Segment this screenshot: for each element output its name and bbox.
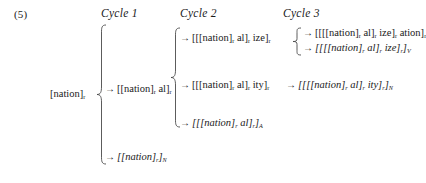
derivation-cycle3-nationality-noun: →[[[[nation]r al]r ity]r]N — [286, 80, 393, 91]
morph-segment: [[nation] — [117, 83, 154, 94]
morph-segment: [nation] — [50, 88, 83, 99]
category-subscript: r — [232, 84, 234, 91]
category-subscript: r — [395, 32, 397, 39]
derivation-cycle1-nation-al: →[[nation]r al]r — [105, 84, 172, 95]
category-subscript: r — [362, 47, 364, 54]
category-subscript: r — [380, 47, 382, 54]
morph-segment: [[nation] — [117, 151, 156, 162]
column-header-cycle-2: Cycle 2 — [180, 7, 217, 19]
morph-segment: al] — [365, 42, 380, 53]
morph-segment: al] — [238, 117, 253, 128]
category-subscript: N — [163, 156, 167, 163]
morph-segment: al] — [348, 79, 363, 90]
category-subscript: r — [235, 122, 237, 129]
category-subscript: r — [359, 32, 361, 39]
morph-segment: [[[nation] — [192, 32, 232, 43]
arrow-icon: → — [105, 84, 115, 94]
derivation-cycle2-nationalize: →[[[nation]r al]r ize]r — [180, 33, 271, 44]
arrow-icon: → — [180, 33, 190, 43]
category-subscript: r — [83, 93, 85, 100]
morph-segment: ] — [159, 151, 163, 162]
category-subscript: r — [248, 37, 250, 44]
morph-segment: ity] — [365, 79, 382, 90]
category-subscript: r — [154, 88, 156, 95]
arrow-icon: → — [303, 43, 313, 53]
derivation-cycle1-nation-noun: →[[nation]r]N — [105, 152, 167, 163]
arrow-icon: → — [180, 118, 190, 128]
morph-segment: al] — [156, 83, 170, 94]
derivation-cycle2-nationality: →[[[nation]r al]r ity]r — [180, 80, 269, 91]
arrow-icon: → — [286, 80, 296, 90]
example-number: (5) — [14, 8, 27, 20]
morph-segment: [[[[nation] — [298, 79, 345, 90]
category-subscript: r — [253, 122, 255, 129]
morph-segment: [[[[nation] — [315, 27, 359, 38]
arrow-icon: → — [105, 152, 115, 162]
category-subscript: r — [375, 32, 377, 39]
morph-segment: [[[nation] — [192, 117, 235, 128]
morph-segment: ation] — [397, 27, 424, 38]
category-subscript: N — [389, 84, 393, 91]
arrow-icon: → — [303, 28, 313, 38]
derivation-cycle2-national-adjective: →[[[nation]r al]r]A — [180, 118, 263, 129]
category-subscript: r — [345, 84, 347, 91]
category-subscript: r — [382, 84, 384, 91]
brace-cycle-1 — [96, 24, 108, 165]
brace-cycle-3 — [292, 27, 303, 56]
morph-segment: al] — [234, 32, 248, 43]
category-subscript: r — [232, 37, 234, 44]
category-subscript: r — [170, 88, 172, 95]
morph-segment: ize] — [250, 32, 268, 43]
morph-segment: [[[[nation] — [315, 42, 362, 53]
morph-segment: [[[nation] — [192, 79, 232, 90]
column-header-cycle-1: Cycle 1 — [101, 7, 138, 19]
category-subscript: r — [400, 47, 402, 54]
morph-segment: al] — [361, 27, 375, 38]
derivation-cycle3-nationalization: →[[[[nation]r al]r ize]r ation]r — [303, 28, 426, 39]
category-subscript: r — [268, 37, 270, 44]
morph-segment: ity] — [250, 79, 267, 90]
column-header-cycle-3: Cycle 3 — [283, 7, 320, 19]
morph-segment: ize] — [377, 27, 395, 38]
category-subscript: r — [248, 84, 250, 91]
derivation-cycle3-nationalize-verb: →[[[[nation]r al]r ize]r]V — [303, 43, 411, 54]
category-subscript: r — [267, 84, 269, 91]
base-term-nation: [nation]r — [50, 89, 85, 100]
arrow-icon: → — [180, 80, 190, 90]
morph-segment: ize] — [382, 42, 400, 53]
category-subscript: V — [407, 47, 411, 54]
category-subscript: r — [363, 84, 365, 91]
category-subscript: A — [259, 122, 263, 129]
morph-segment: al] — [234, 79, 248, 90]
category-subscript: r — [156, 156, 158, 163]
